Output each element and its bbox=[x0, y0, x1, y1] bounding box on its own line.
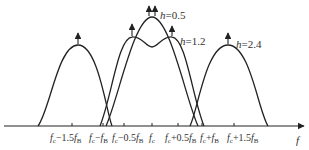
label-h0.5: h=0.5 bbox=[160, 9, 186, 21]
fsk-spectrum-diagram: h=0.5 h=1.2 h=2.4 fc−1.5fB fc−fB fc−0.5f… bbox=[0, 0, 309, 150]
tick-labels: fc−1.5fB fc−fB fc−0.5fB fc fc+0.5fB fc+f… bbox=[50, 132, 259, 145]
curve-h0.5 bbox=[106, 17, 198, 126]
curve-h2.4-right bbox=[190, 45, 268, 126]
tick-label-fc+0.5fB: fc+0.5fB bbox=[165, 132, 197, 145]
axis-label-f: f bbox=[296, 134, 301, 146]
curve-h2.4-left bbox=[38, 45, 112, 126]
curve-h1.2 bbox=[100, 37, 204, 126]
tick-label-fc-fB: fc−fB bbox=[89, 132, 108, 145]
tick-label-fc+fB: fc+fB bbox=[200, 132, 219, 145]
tick-label-fc+1.5fB: fc+1.5fB bbox=[227, 132, 259, 145]
tick-label-fc-0.5fB: fc−0.5fB bbox=[112, 132, 144, 145]
tick-label-fc-1.5fB: fc−1.5fB bbox=[50, 132, 82, 145]
tick-label-fc: fc bbox=[149, 132, 155, 145]
label-h2.4: h=2.4 bbox=[236, 38, 262, 50]
label-h1.2: h=1.2 bbox=[180, 35, 205, 47]
spectral-line-arrows bbox=[78, 6, 228, 44]
